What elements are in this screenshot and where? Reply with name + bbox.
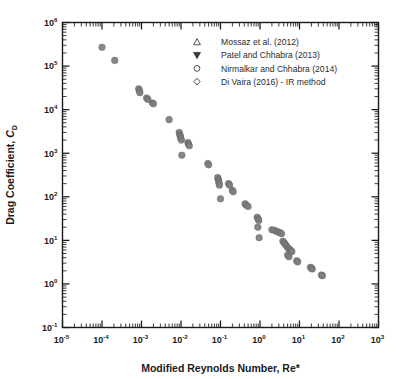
data-point [178, 137, 185, 144]
legend-entry-label: Patel and Chhabra (2013) [221, 50, 320, 60]
data-point [294, 259, 301, 266]
legend-entry-label: Di Vaira (2016) - IR method [221, 77, 326, 87]
data-point [166, 116, 173, 123]
data-point [186, 143, 193, 150]
x-tick-label: 10-5 [54, 333, 70, 345]
x-tick-label: 103 [371, 333, 385, 345]
x-axis-title: Modified Reynolds Number, Re* [141, 362, 301, 374]
legend-marker-diamond-open [194, 78, 200, 85]
data-point [205, 162, 212, 169]
y-tick-label: 106 [44, 16, 58, 28]
y-axis-title: Drag Coefficient, CD [4, 125, 18, 225]
data-point [278, 230, 285, 237]
x-tick-label: 10-3 [133, 333, 149, 345]
data-point [99, 44, 106, 51]
data-point [150, 101, 157, 108]
data-point [245, 203, 252, 210]
legend-marker-triangle-up-open [194, 39, 201, 45]
y-axis-title-group: Drag Coefficient, CD [4, 125, 18, 225]
legend-entry-label: Nirmalkar and Chhabra (2014) [221, 64, 337, 74]
data-point [255, 224, 262, 231]
scatter-plot-svg: 10-510-410-310-210-110010110210310-11001… [0, 0, 399, 379]
x-tick-label: 10-1 [212, 333, 228, 345]
chart-figure-root: 10-510-410-310-210-110010110210310-11001… [0, 0, 399, 379]
y-tick-label: 10-1 [42, 321, 58, 333]
data-point [256, 234, 263, 241]
x-tick-label: 101 [292, 333, 306, 345]
data-point [255, 217, 262, 224]
data-point [230, 189, 237, 196]
data-point [111, 57, 118, 64]
x-tick-label: 10-4 [93, 333, 109, 345]
x-tick-label: 100 [252, 333, 266, 345]
data-point [137, 89, 144, 96]
data-point [216, 182, 223, 189]
legend-marker-circle-open [194, 66, 200, 72]
y-tick-label: 100 [44, 277, 58, 289]
y-tick-label: 101 [44, 234, 58, 246]
x-tick-label: 102 [331, 333, 345, 345]
x-tick-label: 10-2 [172, 333, 188, 345]
y-tick-label: 103 [44, 147, 58, 159]
data-point [179, 152, 186, 159]
y-tick-label: 102 [44, 190, 58, 202]
y-tick-label: 105 [44, 59, 58, 71]
data-point [319, 272, 326, 279]
data-point [286, 253, 293, 260]
data-point [309, 266, 316, 273]
data-point [217, 195, 224, 202]
legend-entry-label: Mossaz et al. (2012) [221, 37, 299, 47]
legend-marker-triangle-down-filled [194, 52, 201, 58]
y-tick-label: 104 [44, 103, 58, 115]
